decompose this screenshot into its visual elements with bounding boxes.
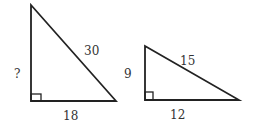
large-vertical-leg-label: ?	[14, 68, 20, 80]
right-angle-marker	[145, 92, 153, 100]
small-hypotenuse-label: 15	[180, 55, 195, 67]
small-horizontal-leg-label: 12	[170, 109, 185, 121]
right-angle-marker	[31, 94, 41, 101]
large-horizontal-leg-label: 18	[63, 110, 78, 122]
small-vertical-leg-label: 9	[124, 68, 132, 80]
diagram-canvas	[0, 0, 253, 126]
large-hypotenuse-label: 30	[84, 45, 99, 57]
large-triangle	[31, 5, 116, 101]
